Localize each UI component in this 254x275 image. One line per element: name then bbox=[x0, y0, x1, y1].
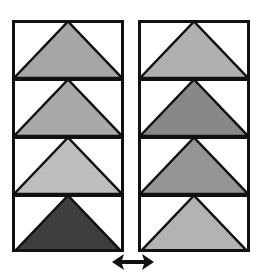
left-column bbox=[12, 20, 124, 252]
triangle-tile bbox=[140, 80, 249, 137]
triangle-tile bbox=[14, 138, 123, 195]
triangle-tile bbox=[14, 80, 123, 137]
right-tile-stack bbox=[138, 20, 250, 252]
triangle-tile bbox=[140, 22, 249, 79]
double-arrow-icon bbox=[112, 254, 154, 270]
triangle-tile bbox=[14, 22, 123, 79]
triangle-tile bbox=[140, 196, 249, 253]
triangle-tile bbox=[140, 138, 249, 195]
triangle-tile bbox=[14, 196, 123, 253]
right-column bbox=[138, 20, 250, 252]
left-tile-stack bbox=[12, 20, 124, 252]
